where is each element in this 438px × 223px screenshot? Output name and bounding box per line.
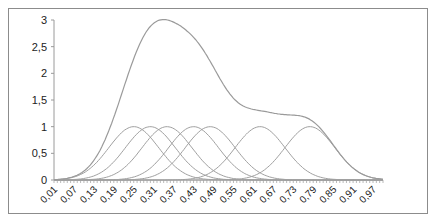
x-tick-label: 0,13 — [78, 183, 100, 205]
x-tick-label: 0,67 — [257, 183, 279, 205]
x-tick-label: 0,37 — [158, 183, 180, 205]
y-tick-label: 2 — [41, 67, 47, 79]
x-tick-label: 0,85 — [317, 183, 339, 205]
x-tick-label: 0,79 — [297, 183, 319, 205]
x-tick-label: 0,25 — [118, 183, 140, 205]
y-tick-label: 1,5 — [32, 94, 47, 106]
y-tick-label: 3 — [41, 14, 47, 26]
x-tick-label: 0,19 — [98, 183, 120, 205]
x-tick-label: 0,61 — [237, 183, 259, 205]
y-tick-label: 1 — [41, 121, 47, 133]
bell-curve-line — [54, 127, 383, 180]
y-axis: 00,511,522,53 — [32, 14, 54, 186]
x-tick-label: 0,91 — [337, 183, 359, 205]
line-chart: 00,511,522,53 0,010,070,130,190,250,310,… — [0, 0, 438, 223]
y-tick-label: 0 — [41, 174, 47, 186]
bell-curve-line — [54, 127, 383, 180]
x-tick-label: 0,55 — [217, 183, 239, 205]
bell-curve-line — [54, 127, 383, 180]
chart-series — [54, 20, 383, 180]
y-tick-label: 2,5 — [32, 41, 47, 53]
sum-envelope-line — [54, 20, 383, 180]
bell-curve-line — [54, 127, 383, 180]
x-tick-label: 0,97 — [357, 183, 379, 205]
x-axis: 0,010,070,130,190,250,310,370,430,490,55… — [38, 180, 383, 205]
y-tick-label: 0,5 — [32, 147, 47, 159]
bell-curve-line — [54, 127, 383, 180]
x-tick-label: 0,31 — [138, 183, 160, 205]
x-tick-label: 0,07 — [58, 183, 80, 205]
x-tick-label: 0,73 — [277, 183, 299, 205]
bell-curve-line — [54, 127, 383, 180]
x-tick-label: 0,49 — [197, 183, 219, 205]
bell-curve-line — [54, 127, 383, 180]
x-tick-label: 0,43 — [177, 183, 199, 205]
x-tick-label: 0,01 — [38, 183, 60, 205]
